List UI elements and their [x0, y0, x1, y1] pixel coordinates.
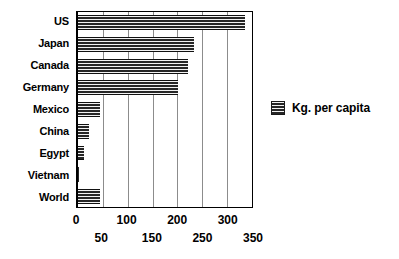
bar-slot-mexico — [78, 99, 252, 121]
y-axis-label-japan: Japan — [2, 33, 74, 55]
bar-world[interactable] — [78, 189, 100, 204]
bar-egypt[interactable] — [78, 146, 84, 161]
bar-china[interactable] — [78, 124, 89, 139]
bar-slot-us — [78, 12, 252, 34]
y-axis-label-world: World — [2, 186, 74, 208]
x-axis-tick-250: 250 — [192, 232, 212, 244]
x-axis-tick-50: 50 — [95, 232, 108, 244]
y-axis-label-egypt: Egypt — [2, 142, 74, 164]
y-axis-label-mexico: Mexico — [2, 99, 74, 121]
bar-canada[interactable] — [78, 59, 188, 74]
bar-slot-world — [78, 185, 252, 207]
x-axis-tick-100: 100 — [117, 214, 137, 226]
x-axis-tick-150: 150 — [142, 232, 162, 244]
bar-slot-egypt — [78, 142, 252, 164]
y-axis-category-labels: US Japan Canada Germany Mexico China Egy… — [2, 11, 74, 208]
legend-swatch-kg-per-capita — [271, 101, 285, 115]
y-axis-label-vietnam: Vietnam — [2, 164, 74, 186]
bar-mexico[interactable] — [78, 102, 100, 117]
y-axis-label-china: China — [2, 120, 74, 142]
bar-us[interactable] — [78, 15, 245, 30]
legend: Kg. per capita — [271, 101, 370, 115]
plot-area — [76, 11, 253, 208]
bar-slot-germany — [78, 77, 252, 99]
bar-slot-vietnam — [78, 164, 252, 186]
x-axis-tick-0: 0 — [73, 214, 80, 226]
x-axis-tick-labels: 050100150200250300350 — [76, 210, 253, 254]
bar-slot-canada — [78, 55, 252, 77]
y-axis-label-canada: Canada — [2, 55, 74, 77]
bar-chart: US Japan Canada Germany Mexico China Egy… — [0, 0, 399, 259]
bar-japan[interactable] — [78, 37, 194, 52]
y-axis-label-germany: Germany — [2, 77, 74, 99]
bar-slot-china — [78, 120, 252, 142]
bar-germany[interactable] — [78, 80, 178, 95]
legend-label-kg-per-capita: Kg. per capita — [292, 101, 370, 115]
x-axis-tick-300: 300 — [218, 214, 238, 226]
x-axis-tick-200: 200 — [167, 214, 187, 226]
x-axis-tick-350: 350 — [243, 232, 263, 244]
bars-layer — [78, 12, 252, 207]
bar-slot-japan — [78, 34, 252, 56]
y-axis-label-us: US — [2, 11, 74, 33]
